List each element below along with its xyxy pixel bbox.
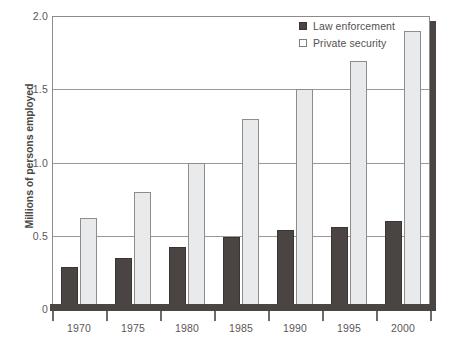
- frame-shadow-right: [430, 21, 436, 311]
- bar-private-security-1980: [188, 163, 205, 310]
- bar-private-security-1995: [350, 61, 367, 309]
- bar-private-security-1990: [296, 89, 313, 309]
- legend-label: Private security: [313, 37, 386, 49]
- bar-group-1980: [169, 16, 205, 309]
- x-tick-label-1995: 1995: [327, 322, 371, 334]
- bar-private-security-1975: [134, 192, 151, 309]
- x-tick-label-1975: 1975: [111, 322, 155, 334]
- bar-private-security-1970: [80, 218, 97, 309]
- legend-swatch-icon: [299, 22, 307, 30]
- bar-group-2000: [385, 16, 421, 309]
- x-tick-label-1985: 1985: [219, 322, 263, 334]
- bar-group-1985: [223, 16, 259, 309]
- x-tick-mark: [160, 311, 162, 321]
- chart-legend: Law enforcementPrivate security: [299, 19, 395, 53]
- bars-layer: [52, 16, 430, 309]
- bar-private-security-2000: [404, 31, 421, 309]
- bar-group-1975: [115, 16, 151, 309]
- x-tick-label-1970: 1970: [57, 322, 101, 334]
- y-tick-label: 2.0: [18, 10, 48, 22]
- legend-entry-law-enforcement: Law enforcement: [299, 19, 395, 33]
- bar-group-1970: [61, 16, 97, 309]
- legend-entry-private-security: Private security: [299, 36, 395, 50]
- x-tick-mark: [376, 311, 378, 321]
- x-tick-label-1990: 1990: [273, 322, 317, 334]
- bar-law-enforcement-2000: [385, 221, 402, 309]
- y-axis-tick-labels: 00.51.01.52.0: [18, 0, 48, 349]
- x-tick-label-2000: 2000: [381, 322, 425, 334]
- x-tick-mark: [214, 311, 216, 321]
- y-tick-label: 0: [18, 303, 48, 315]
- bar-group-1995: [331, 16, 367, 309]
- bar-law-enforcement-1995: [331, 227, 348, 309]
- y-tick-label: 1.5: [18, 83, 48, 95]
- x-tick-label-1980: 1980: [165, 322, 209, 334]
- bar-law-enforcement-1990: [277, 230, 294, 309]
- x-tick-mark: [268, 311, 270, 321]
- legend-swatch-icon: [299, 39, 307, 47]
- bar-law-enforcement-1985: [223, 237, 240, 309]
- y-tick-label: 1.0: [18, 157, 48, 169]
- bar-group-1990: [277, 16, 313, 309]
- x-tick-mark: [430, 311, 432, 321]
- x-tick-mark: [52, 311, 54, 321]
- x-tick-mark: [322, 311, 324, 321]
- x-axis-baseline: [50, 304, 436, 311]
- bar-private-security-1985: [242, 119, 259, 309]
- bar-law-enforcement-1975: [115, 258, 132, 309]
- bar-chart-figure: Millions of persons employed 00.51.01.52…: [0, 0, 463, 349]
- bar-law-enforcement-1980: [169, 247, 186, 309]
- bar-law-enforcement-1970: [61, 267, 78, 309]
- legend-label: Law enforcement: [313, 20, 395, 32]
- y-tick-label: 0.5: [18, 230, 48, 242]
- x-tick-mark: [106, 311, 108, 321]
